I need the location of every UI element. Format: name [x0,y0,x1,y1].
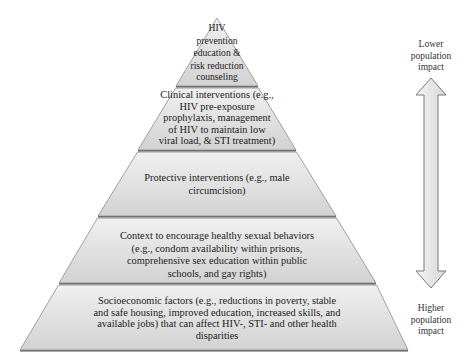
label-line: circumcision) [117,185,317,198]
label-line: (e.g., condom availability within prison… [77,243,357,256]
level-context-label: Context to encourage healthy sexual beha… [77,230,357,280]
label-line: and safe housing, improved education, in… [44,307,390,319]
label-line: impact [401,326,461,338]
level-protective-label: Protective interventions (e.g., male cir… [117,172,317,197]
level-clinical-label: Clinical interventions (e.g., HIV pre-ex… [147,89,287,147]
label-line: schools, and gay rights) [77,268,357,281]
label-line: Context to encourage healthy sexual beha… [77,230,357,243]
label-line: disparities [44,330,390,342]
label-line: prevention [177,35,257,48]
higher-population-impact-label: Higher population impact [401,303,461,338]
level-socioeconomic-label: Socioeconomic factors (e.g., reductions … [44,295,390,341]
label-line: education & [177,47,257,60]
label-line: comprehensive sex education within publi… [77,255,357,268]
label-line: counseling [177,72,257,81]
label-line: population [401,315,461,327]
label-line: population [401,51,461,63]
label-line: Socioeconomic factors (e.g., reductions … [44,295,390,307]
label-line: HIV [177,22,257,35]
level-top-label: HIV prevention education & risk reductio… [177,22,257,81]
label-line: Higher [401,303,461,315]
lower-population-impact-label: Lower population impact [401,39,461,74]
label-line: Clinical interventions (e.g., [147,89,287,101]
label-line: viral load, & STI treatment) [147,135,287,147]
label-line: available jobs) that can affect HIV-, ST… [44,318,390,330]
label-line: of HIV to maintain low [147,124,287,136]
label-line: prophylaxis, management [147,112,287,124]
label-line: Protective interventions (e.g., male [117,172,317,185]
double-headed-vertical-arrow-icon [416,78,446,288]
label-line: impact [401,62,461,74]
label-line: HIV pre-exposure [147,101,287,113]
label-line: Lower [401,39,461,51]
